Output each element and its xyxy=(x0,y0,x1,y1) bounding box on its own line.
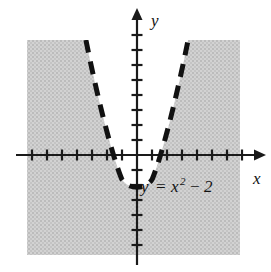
graph-figure: y x y = x 2 − 2 xyxy=(0,0,271,272)
equation-variable: x xyxy=(170,177,179,196)
equation-exponent: 2 xyxy=(180,175,186,187)
equation-constant: 2 xyxy=(204,177,213,196)
y-axis-label: y xyxy=(149,11,159,30)
equation-lhs: y xyxy=(139,177,149,196)
shaded-region xyxy=(27,40,240,255)
equation-minus: − xyxy=(189,177,200,196)
x-axis-label: x xyxy=(252,169,261,188)
equation-equals: = xyxy=(155,177,166,196)
